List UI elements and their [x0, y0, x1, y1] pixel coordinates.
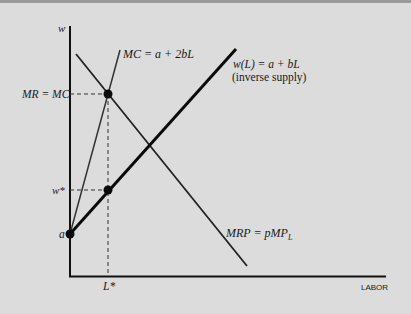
supply-label-line2: (inverse supply) — [232, 71, 307, 84]
mrp-label-main: MRP = pMP — [225, 226, 289, 240]
a-intercept-point — [66, 230, 75, 239]
mrp-curve — [76, 54, 247, 266]
w-star-point — [104, 186, 113, 195]
mrp-label-subscript: L — [287, 233, 293, 242]
mr-mc-label: MR = MC — [21, 88, 70, 100]
x-axis-label: LABOR — [361, 283, 388, 292]
mr-mc-point — [104, 90, 113, 99]
a-label: a — [59, 228, 65, 240]
mc-label: MC = a + 2bL — [122, 47, 194, 61]
diagram-canvas: w MC = a + 2bL w(L) = a + bL (inverse su… — [0, 0, 411, 314]
monopsony-diagram: w MC = a + 2bL w(L) = a + bL (inverse su… — [0, 0, 411, 314]
l-star-label: L* — [102, 280, 115, 292]
mrp-label: MRP = pMPL — [225, 226, 293, 242]
y-axis-label: w — [58, 22, 66, 34]
w-star-label: w* — [52, 184, 65, 196]
supply-label-line1: w(L) = a + bL — [233, 58, 300, 71]
